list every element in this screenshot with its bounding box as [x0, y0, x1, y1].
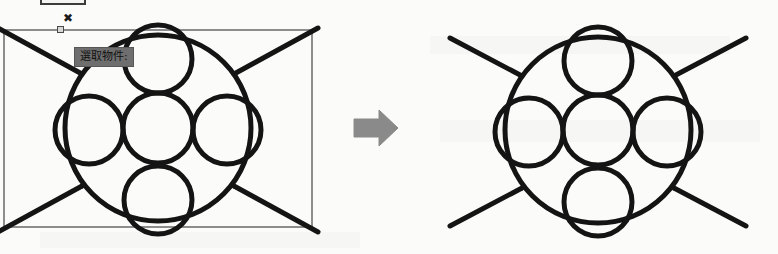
spoke-top-left — [450, 38, 522, 76]
selection-tooltip: 選取物件: — [74, 47, 134, 67]
spoke-top-left — [0, 28, 82, 74]
bottom-circle — [124, 166, 192, 234]
spoke-bottom-right — [674, 188, 746, 226]
outer-circle — [505, 37, 691, 223]
spoke-top-right — [234, 28, 318, 74]
spoke-bottom-left — [0, 186, 82, 232]
selection-handle[interactable] — [57, 26, 64, 33]
spoke-bottom-right — [234, 186, 318, 232]
spoke-bottom-left — [450, 188, 522, 226]
center-circle — [563, 95, 633, 165]
result-figure-svg — [430, 20, 770, 240]
transform-arrow — [352, 108, 400, 148]
bottom-circle — [564, 168, 632, 236]
spoke-top-right — [674, 38, 746, 76]
crosshair-x-cursor: ✖ — [63, 13, 73, 23]
center-circle — [123, 93, 193, 163]
arrow-right-icon — [352, 108, 400, 148]
result-figure[interactable] — [430, 20, 770, 240]
source-figure[interactable] — [0, 20, 330, 240]
arrow-right-shape — [354, 110, 398, 146]
source-figure-svg — [0, 20, 330, 240]
screenshot-canvas: ✖ 選取物件: — [0, 0, 778, 254]
toolbar-button[interactable] — [40, 0, 86, 5]
